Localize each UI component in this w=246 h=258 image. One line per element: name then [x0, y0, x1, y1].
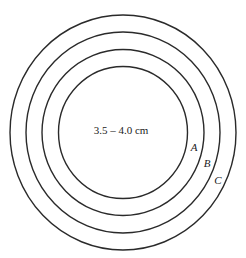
concentric-rings-diagram: 3.5 – 4.0 cm A B C: [0, 0, 246, 258]
center-diameter-label: 3.5 – 4.0 cm: [94, 124, 149, 136]
ring-label-c: C: [214, 174, 222, 186]
ring-label-a: A: [190, 141, 198, 153]
ring-label-b: B: [204, 157, 211, 169]
